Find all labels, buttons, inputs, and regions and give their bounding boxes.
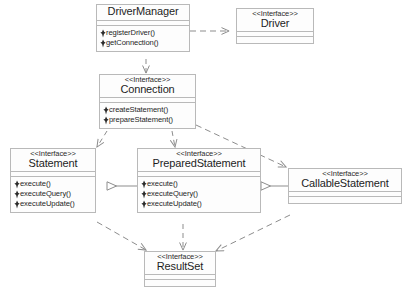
operation-row: executeQuery() xyxy=(141,189,258,199)
public-visibility-icon xyxy=(103,106,109,115)
operation-label: createStatement() xyxy=(109,105,168,115)
operation-label: getConnection() xyxy=(106,38,159,48)
public-visibility-icon xyxy=(14,200,20,209)
operations-compartment-callablestatement xyxy=(289,197,401,203)
operation-row: registerDriver() xyxy=(100,28,187,38)
class-name-drivermanager: DriverManager xyxy=(99,6,187,18)
operations-compartment-statement: execute() executeQuery() executeUpdate() xyxy=(11,177,95,212)
class-name-connection: Connection xyxy=(102,84,193,96)
public-visibility-icon xyxy=(14,190,20,199)
public-visibility-icon xyxy=(14,180,20,189)
operation-row: executeUpdate() xyxy=(141,199,258,209)
class-name-resultset: ResultSet xyxy=(147,261,213,273)
class-box-resultset[interactable]: <<Interface>> ResultSet xyxy=(144,251,216,287)
class-box-statement[interactable]: <<Interface>> Statement execute() execut… xyxy=(10,148,96,213)
public-visibility-icon xyxy=(103,116,109,125)
public-visibility-icon xyxy=(100,29,106,38)
class-name-callablestatement: CallableStatement xyxy=(291,178,399,190)
operation-row: executeUpdate() xyxy=(14,199,93,209)
operation-row: execute() xyxy=(141,179,258,189)
public-visibility-icon xyxy=(141,190,147,199)
operation-row: prepareStatement() xyxy=(103,115,193,125)
class-box-connection[interactable]: <<Interface>> Connection createStatement… xyxy=(99,74,196,129)
operations-compartment-preparedstatement: execute() executeQuery() executeUpdate() xyxy=(138,177,260,212)
operation-label: prepareStatement() xyxy=(109,115,173,125)
operation-row: executeQuery() xyxy=(14,189,93,199)
class-name-statement: Statement xyxy=(13,158,93,170)
operation-label: executeUpdate() xyxy=(20,199,75,209)
class-header-resultset: <<Interface>> ResultSet xyxy=(145,252,215,275)
class-box-callablestatement[interactable]: <<Interface>> CallableStatement xyxy=(288,168,402,204)
operation-label: executeQuery() xyxy=(20,189,71,199)
operation-label: executeQuery() xyxy=(147,189,198,199)
class-header-driver: <<Interface>> Driver xyxy=(237,9,313,32)
operation-label: executeUpdate() xyxy=(147,199,202,209)
class-box-drivermanager[interactable]: DriverManager registerDriver() getConnec… xyxy=(96,4,190,52)
public-visibility-icon xyxy=(141,180,147,189)
class-header-preparedstatement: <<Interface>> PreparedStatement xyxy=(138,149,260,172)
class-name-preparedstatement: PreparedStatement xyxy=(140,158,258,170)
dependency-statement-resultset xyxy=(97,222,146,250)
class-box-driver[interactable]: <<Interface>> Driver xyxy=(236,8,314,44)
operations-compartment-drivermanager: registerDriver() getConnection() xyxy=(97,26,189,51)
operation-label: execute() xyxy=(147,179,178,189)
class-header-callablestatement: <<Interface>> CallableStatement xyxy=(289,169,401,192)
class-header-connection: <<Interface>> Connection xyxy=(100,75,195,98)
dependency-connection-preparedstatement xyxy=(172,131,175,147)
operation-row: getConnection() xyxy=(100,38,187,48)
class-header-drivermanager: DriverManager xyxy=(97,5,189,21)
operation-label: execute() xyxy=(20,179,51,189)
public-visibility-icon xyxy=(141,200,147,209)
class-name-driver: Driver xyxy=(239,18,311,30)
public-visibility-icon xyxy=(100,39,106,48)
operations-compartment-driver xyxy=(237,37,313,43)
uml-class-diagram: DriverManager registerDriver() getConnec… xyxy=(0,0,409,294)
operation-row: createStatement() xyxy=(103,105,193,115)
operation-row: execute() xyxy=(14,179,93,189)
class-box-preparedstatement[interactable]: <<Interface>> PreparedStatement execute(… xyxy=(137,148,261,213)
operations-compartment-connection: createStatement() prepareStatement() xyxy=(100,103,195,128)
dependency-connection-statement xyxy=(97,131,107,147)
dependency-callablestatement-resultset xyxy=(216,215,290,251)
operations-compartment-resultset xyxy=(145,280,215,286)
operation-label: registerDriver() xyxy=(106,28,155,38)
class-header-statement: <<Interface>> Statement xyxy=(11,149,95,172)
relationship-lines xyxy=(0,0,409,294)
